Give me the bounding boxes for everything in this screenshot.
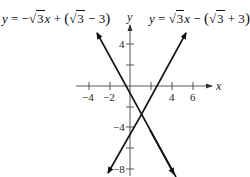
x-tick-label-4: 4 xyxy=(169,91,175,103)
y-tick-label-neg8: −8 xyxy=(113,163,125,175)
x-tick-label-6: 6 xyxy=(190,91,196,103)
graph: x y −4 −2 4 6 4 −4 −8 xyxy=(0,0,250,177)
x-axis-label: x xyxy=(215,79,222,93)
line-positive-slope xyxy=(140,33,186,117)
y-tick-label-neg4: −4 xyxy=(113,121,125,133)
x-tick-label-neg2: −2 xyxy=(103,91,115,103)
y-tick-label-4: 4 xyxy=(119,38,125,50)
line-negative-slope-lower-arrow xyxy=(150,130,174,174)
y-axis-label: y xyxy=(126,10,133,24)
x-tick-label-neg4: −4 xyxy=(82,91,94,103)
